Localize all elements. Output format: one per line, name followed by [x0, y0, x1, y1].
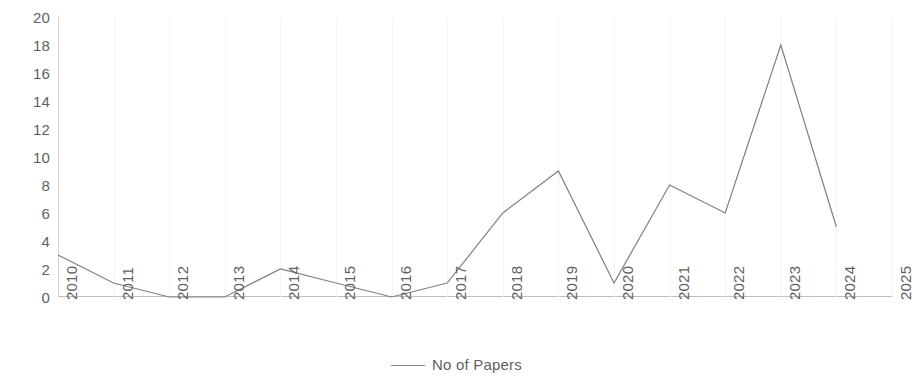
x-axis-tick-label: 2025 [884, 300, 900, 346]
x-axis-tick-label: 2013 [217, 300, 233, 346]
x-axis-tick-label: 2017 [439, 300, 455, 346]
y-axis: 02468101214161820 [0, 0, 50, 310]
y-axis-tick-label: 18 [4, 38, 50, 53]
x-axis-tick-label: 2016 [384, 300, 400, 346]
plot-area [58, 17, 892, 297]
y-axis-tick-label: 14 [4, 94, 50, 109]
y-axis-tick-label: 0 [4, 290, 50, 305]
y-axis-tick-label: 12 [4, 122, 50, 137]
x-axis-tick-label: 2011 [106, 300, 122, 346]
series-line-no-of-papers [58, 45, 836, 297]
x-axis-tick-label: 2021 [662, 300, 678, 346]
line-chart: 02468101214161820 2010201120122013201420… [0, 0, 913, 380]
x-axis: 2010201120122013201420152016201720182019… [58, 300, 913, 350]
x-axis-tick-label: 2012 [161, 300, 177, 346]
y-axis-tick-label: 16 [4, 66, 50, 81]
x-axis-tick-label: 2014 [272, 300, 288, 346]
y-axis-tick-label: 20 [4, 10, 50, 25]
y-axis-tick-label: 6 [4, 206, 50, 221]
x-axis-tick-label: 2010 [50, 300, 66, 346]
y-axis-tick-label: 2 [4, 262, 50, 277]
x-axis-tick-label: 2019 [550, 300, 566, 346]
y-axis-tick-label: 8 [4, 178, 50, 193]
legend-line-marker [391, 365, 425, 366]
chart-legend: No of Papers [0, 353, 913, 377]
y-axis-tick-label: 4 [4, 234, 50, 249]
gridline-vertical [892, 17, 893, 297]
x-axis-tick-label: 2020 [606, 300, 622, 346]
x-axis-tick-label: 2023 [773, 300, 789, 346]
legend-label-no-of-papers: No of Papers [432, 357, 522, 373]
x-axis-tick-label: 2018 [495, 300, 511, 346]
y-axis-tick-label: 10 [4, 150, 50, 165]
x-axis-tick-label: 2024 [828, 300, 844, 346]
x-axis-tick-label: 2022 [717, 300, 733, 346]
series-layer [58, 17, 892, 297]
x-axis-tick-label: 2015 [328, 300, 344, 346]
